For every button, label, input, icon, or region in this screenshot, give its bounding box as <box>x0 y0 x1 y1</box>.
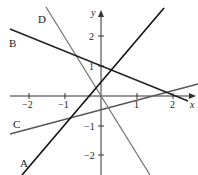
y-axis-label: y <box>90 7 96 18</box>
y-axis-arrow-icon <box>98 10 104 17</box>
label-B: B <box>9 37 16 49</box>
label-A: A <box>20 157 28 169</box>
y-tick-label: −2 <box>84 150 95 161</box>
y-tick-label: −1 <box>84 121 95 132</box>
line-B <box>10 29 188 101</box>
x-tick-label: −1 <box>58 99 69 110</box>
x-axis-label: x <box>189 99 195 110</box>
label-D: D <box>38 13 46 25</box>
label-C: C <box>13 118 20 130</box>
line-D <box>46 7 150 175</box>
y-tick-label: 2 <box>89 31 94 42</box>
x-tick-label: 2 <box>170 99 175 110</box>
x-tick-label: −2 <box>22 99 33 110</box>
line-diagram: −2 −1 1 2 x 2 1 −1 −2 y A B C D <box>0 0 198 175</box>
